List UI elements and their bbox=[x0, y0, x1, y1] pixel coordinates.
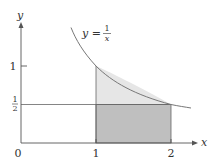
function-label-numerator: 1 bbox=[104, 24, 109, 33]
function-label: y = 1 x bbox=[81, 24, 111, 43]
light-shaded-region bbox=[96, 66, 171, 105]
function-label-denominator: x bbox=[105, 34, 110, 43]
x-axis-label: x bbox=[201, 136, 208, 149]
x-axis-arrow-icon bbox=[192, 141, 198, 146]
half-numerator: 1 bbox=[12, 95, 17, 104]
x-tick-label-1: 1 bbox=[93, 147, 100, 160]
x-tick-label-0: 0 bbox=[15, 147, 22, 160]
chart-svg: y x 0 1 2 1 1 2 y = 1 x bbox=[0, 0, 215, 165]
y-tick-label-half: 1 2 bbox=[12, 95, 18, 113]
function-label-lhs: y = bbox=[81, 27, 101, 40]
y-tick-label-1: 1 bbox=[10, 60, 17, 73]
figure: y x 0 1 2 1 1 2 y = 1 x bbox=[0, 0, 215, 165]
x-tick-label-2: 2 bbox=[168, 147, 175, 160]
y-axis-label: y bbox=[16, 9, 24, 22]
dark-rectangle bbox=[96, 105, 171, 144]
y-axis-arrow-icon bbox=[19, 22, 24, 28]
half-denominator: 2 bbox=[12, 104, 17, 113]
